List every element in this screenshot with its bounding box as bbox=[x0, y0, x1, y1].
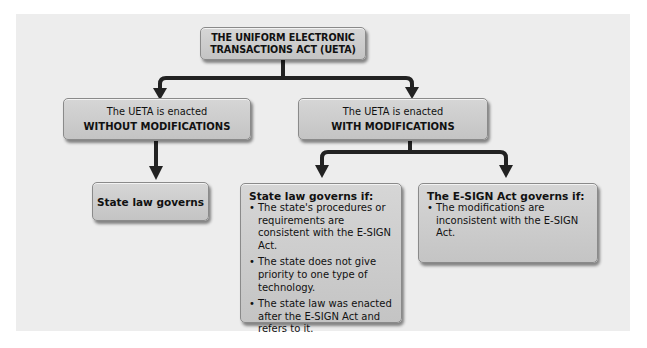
condition-list: The state's procedures or requirements a… bbox=[249, 202, 395, 336]
arrow-head-state-law bbox=[315, 165, 329, 178]
condition-title: State law governs if: bbox=[249, 190, 395, 202]
node-label: State law governs bbox=[97, 196, 204, 208]
root-title-line1: THE UNIFORM ELECTRONIC bbox=[211, 32, 355, 44]
node-with-modifications: The UETA is enacted WITH MODIFICATIONS bbox=[298, 98, 488, 140]
condition-title: The E-SIGN Act governs if: bbox=[427, 190, 591, 202]
arrow-head-esign bbox=[499, 165, 513, 178]
node-label-bold: WITH MODIFICATIONS bbox=[331, 119, 454, 134]
arrow-head-left-down bbox=[149, 166, 163, 180]
root-node-ueta: THE UNIFORM ELECTRONIC TRANSACTIONS ACT … bbox=[200, 27, 366, 60]
node-state-law-governs-if: State law governs if: The state's proced… bbox=[240, 183, 402, 323]
root-title-line2: TRANSACTIONS ACT (UETA) bbox=[210, 44, 356, 56]
node-esign-governs-if: The E-SIGN Act governs if: The modificat… bbox=[418, 183, 598, 263]
node-label-bold: WITHOUT MODIFICATIONS bbox=[84, 119, 231, 134]
condition-list: The modifications are inconsistent with … bbox=[427, 202, 591, 240]
condition-item: The modifications are inconsistent with … bbox=[427, 202, 591, 240]
node-label: The UETA is enacted bbox=[107, 104, 207, 119]
condition-item: The state's procedures or requirements a… bbox=[249, 202, 395, 252]
condition-item: The state does not give priority to one … bbox=[249, 256, 395, 294]
node-label: The UETA is enacted bbox=[343, 104, 443, 119]
node-without-modifications: The UETA is enacted WITHOUT MODIFICATION… bbox=[63, 98, 251, 140]
node-state-law-governs: State law governs bbox=[92, 182, 209, 221]
condition-item: The state law was enacted after the E-SI… bbox=[249, 298, 395, 336]
